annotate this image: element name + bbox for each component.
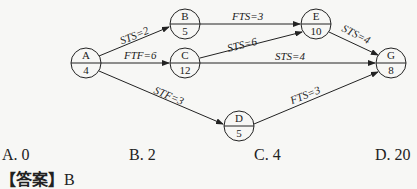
node-duration: 8 [388,64,394,76]
node-d: D5 [224,111,254,141]
edge-label-b-e: FTS=3 [231,10,264,22]
option-a: A. 0 [2,146,30,164]
answer-value: B [64,171,75,188]
node-id: B [181,10,188,22]
node-duration: 5 [182,25,188,37]
node-id: D [235,112,243,124]
node-duration: 10 [311,25,323,37]
node-duration: 4 [83,64,89,76]
edge-label-e-g: STS=4 [340,22,373,47]
edge-label-a-b: STS=2 [118,24,151,47]
edge-label-c-g: STS=4 [275,50,306,62]
edge-label-a-c: FTF=6 [123,49,157,61]
answer-line: 【答案】B [0,166,75,189]
edge-label-a-d: STF=3 [152,84,186,107]
network-diagram: STS=2 FTF=6 STF=3 FTS=3 STS=6 STS=4 STS=… [0,0,417,145]
node-duration: 5 [236,127,242,139]
node-c: C12 [170,48,200,78]
node-id: A [82,49,90,61]
answer-bracket: 【答案】 [0,170,64,189]
node-id: E [313,10,320,22]
edge-label-c-e: STS=6 [226,35,259,54]
node-a: A4 [71,48,101,78]
node-duration: 12 [180,64,191,76]
edge-d-g [254,72,378,124]
node-id: G [387,49,395,61]
node-e: E10 [301,9,331,39]
node-g: G8 [376,48,406,78]
option-c: C. 4 [254,146,281,164]
node-b: B5 [170,9,200,39]
option-b: B. 2 [129,146,156,164]
node-id: C [181,49,188,61]
option-d: D. 20 [375,146,411,164]
